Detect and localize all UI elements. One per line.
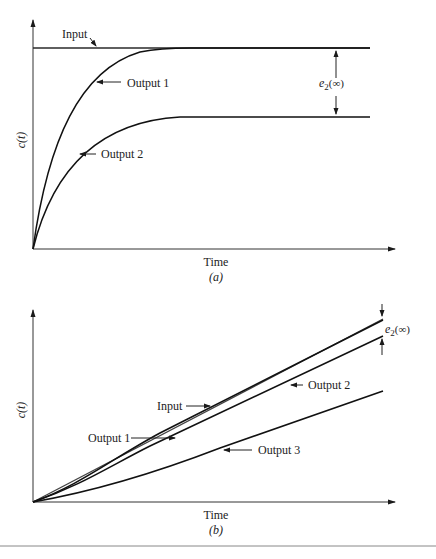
panel-label-b: (b) [209, 523, 223, 537]
panel-a: Input Output 1 Output 2 e2(∞) c(t) Time … [14, 20, 395, 284]
output2-label-b: Output 2 [308, 378, 350, 392]
output2-label-a: Output 2 [101, 147, 143, 161]
output1-label-a: Output 1 [127, 76, 169, 90]
figure-canvas: Input Output 1 Output 2 e2(∞) c(t) Time … [0, 0, 436, 559]
error-label-b: e2(∞) [385, 322, 410, 338]
output3-curve-b [33, 391, 383, 502]
xlabel-b: Time [204, 508, 229, 522]
error-label-a: e2(∞) [319, 76, 344, 92]
output1-label-b: Output 1 [88, 431, 130, 445]
input-pointer-a [90, 38, 96, 46]
input-label-a: Input [62, 27, 88, 41]
panel-label-a: (a) [209, 270, 223, 284]
output2-curve-a [33, 117, 370, 249]
input-label-b: Input [157, 399, 183, 413]
ylabel-b: c(t) [14, 402, 28, 419]
ylabel-a: c(t) [14, 132, 28, 149]
xlabel-a: Time [204, 255, 229, 269]
output3-label-b: Output 3 [258, 443, 300, 457]
panel-b: Input Output 1 Output 2 Output 3 e2(∞) c… [14, 304, 410, 537]
